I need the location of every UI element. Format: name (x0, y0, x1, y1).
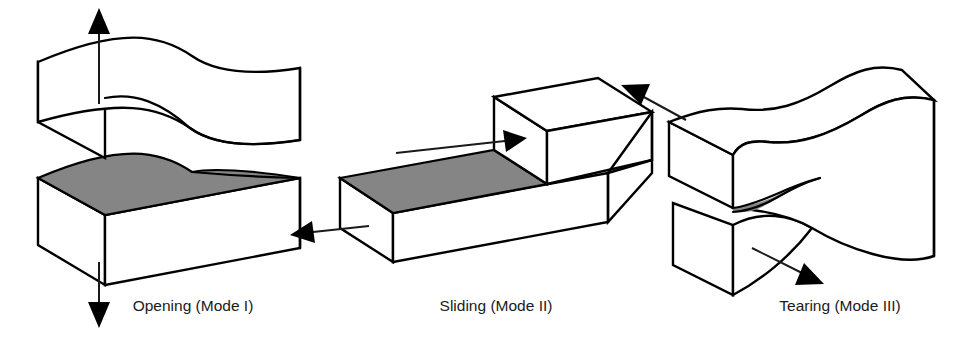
mode-2-group: Sliding (Mode II) (290, 78, 652, 314)
figure-canvas: Opening (Mode I) (0, 0, 977, 344)
arrow-lower-right-icon (795, 263, 824, 285)
mode-1-label: Opening (Mode I) (133, 297, 254, 314)
fracture-modes-figure: Opening (Mode I) (0, 0, 977, 344)
arrow-down-icon (88, 302, 110, 328)
mode-2-arrow-right (396, 130, 527, 153)
mode-3-group: Tearing (Mode III) (621, 67, 934, 314)
mode-1-group: Opening (Mode I) (38, 8, 300, 328)
arrow-up-icon (88, 8, 110, 34)
mode-2-label: Sliding (Mode II) (440, 297, 553, 314)
mode-3-label: Tearing (Mode III) (779, 297, 900, 314)
mode-3-low-left-face (673, 203, 733, 295)
